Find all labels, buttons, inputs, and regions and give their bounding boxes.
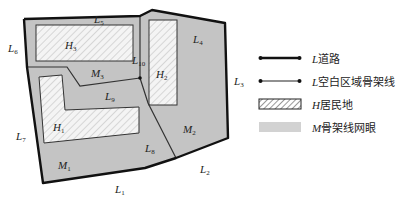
legend-item-mesh: M骨架线网眼 <box>258 117 414 137</box>
legend-label: M骨架线网眼 <box>312 119 376 135</box>
legend: L道路 L空白区域骨架线 H居民地 M骨架线网眼 <box>258 48 414 140</box>
label-l3: L3 <box>233 75 244 89</box>
label-l5: L5 <box>93 13 104 27</box>
legend-label: H居民地 <box>312 96 353 112</box>
legend-item-residential: H居民地 <box>258 94 414 114</box>
skeleton-line-icon <box>258 74 302 88</box>
legend-item-skeleton: L空白区域骨架线 <box>258 71 414 91</box>
residential-h3 <box>36 25 133 61</box>
label-l1: L1 <box>114 183 125 197</box>
hatch-swatch-icon <box>258 97 302 111</box>
mesh-swatch-icon <box>258 120 302 134</box>
label-l2: L2 <box>199 163 210 177</box>
residential-h2 <box>149 20 177 105</box>
road-line-icon <box>258 51 302 65</box>
skeleton-node <box>138 76 142 80</box>
legend-label: L空白区域骨架线 <box>312 73 395 89</box>
label-l7: L7 <box>15 130 26 144</box>
legend-item-road: L道路 <box>258 48 414 68</box>
legend-label: L道路 <box>312 50 340 66</box>
label-l6: L6 <box>7 42 18 56</box>
